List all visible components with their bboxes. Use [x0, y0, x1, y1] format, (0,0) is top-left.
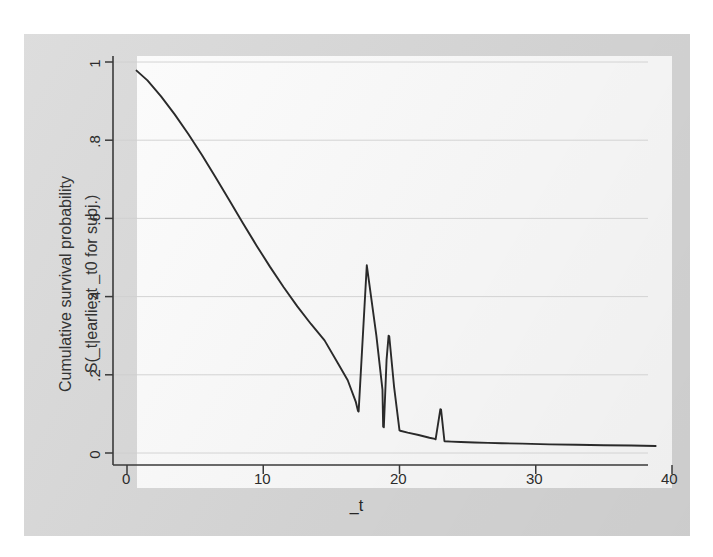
plot-svg: [0, 0, 713, 557]
axis-ticks-group: [105, 62, 672, 474]
data-series-group: [137, 71, 656, 446]
series-line-0: [137, 71, 656, 446]
axis-spines-group: [113, 56, 648, 465]
screenshot-root: Cumulative survival probability S(_t|ear…: [0, 0, 713, 557]
gridlines-group: [113, 62, 648, 453]
